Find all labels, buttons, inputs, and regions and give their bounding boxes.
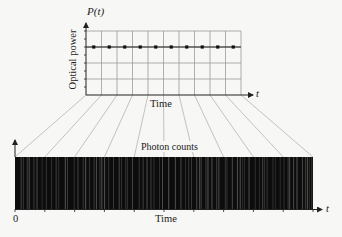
y-symbol-label: P(t) bbox=[87, 5, 104, 17]
optical-power-grid bbox=[86, 31, 241, 95]
photon-counts-label: Photon counts bbox=[140, 141, 199, 152]
top-x-axis-label: Time bbox=[150, 98, 172, 109]
top-x-symbol: t bbox=[256, 88, 259, 99]
bottom-x-axis-label: Time bbox=[155, 213, 177, 224]
diagram-svg bbox=[0, 0, 342, 237]
diagram-canvas: P(t) Optical power Time t Photon counts … bbox=[0, 0, 342, 237]
photon-count-bar bbox=[15, 157, 313, 209]
bottom-x-symbol: t bbox=[326, 203, 329, 214]
optical-power-axes bbox=[86, 23, 253, 95]
origin-label: 0 bbox=[13, 213, 18, 224]
y-axis-label: Optical power bbox=[67, 28, 78, 92]
